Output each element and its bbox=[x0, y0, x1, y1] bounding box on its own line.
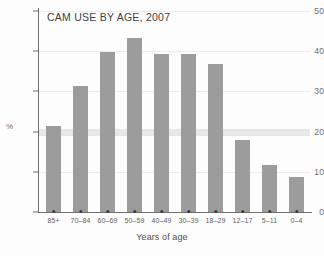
x-axis-label: Years of age bbox=[0, 232, 324, 242]
x-tick-label-5-11: 5–11 bbox=[262, 217, 277, 224]
bar-40-49 bbox=[154, 54, 169, 212]
bar-12-17 bbox=[235, 140, 250, 212]
y-tick-mark-10 bbox=[33, 171, 38, 172]
gridline-50 bbox=[38, 11, 310, 12]
y-axis-label: % bbox=[6, 122, 13, 131]
y-tick-label-20: 20 bbox=[292, 127, 324, 137]
bar-85-plus bbox=[46, 126, 61, 212]
bar-50-59 bbox=[127, 38, 142, 212]
x-tick-label-60-69: 60–69 bbox=[98, 217, 118, 224]
bar-18-29 bbox=[208, 64, 223, 212]
bar-70-84 bbox=[73, 86, 88, 212]
x-tick-label-70-84: 70–84 bbox=[71, 217, 91, 224]
x-tick-label-18-29: 18–29 bbox=[206, 217, 226, 224]
y-tick-label-40: 40 bbox=[292, 46, 324, 56]
x-tick-label-50-59: 50–59 bbox=[125, 217, 145, 224]
y-tick-mark-30 bbox=[33, 91, 38, 92]
plot-area bbox=[38, 11, 310, 212]
y-tick-mark-20 bbox=[33, 131, 38, 132]
y-axis-line bbox=[38, 8, 39, 212]
y-tick-mark-0 bbox=[33, 212, 38, 213]
bar-chart: CAM USE BY AGE, 2007 % 0 10 20 30 40 50 bbox=[0, 0, 324, 256]
y-tick-mark-50 bbox=[33, 11, 38, 12]
bar-60-69 bbox=[100, 52, 115, 212]
x-tick-label-85-plus: 85+ bbox=[47, 217, 59, 224]
y-tick-label-10: 10 bbox=[292, 167, 324, 177]
bar-5-11 bbox=[262, 165, 277, 212]
y-tick-label-30: 30 bbox=[292, 86, 324, 96]
y-tick-label-50: 50 bbox=[292, 6, 324, 16]
gridline-40 bbox=[38, 51, 310, 52]
bar-30-39 bbox=[181, 54, 196, 212]
x-tick-label-40-49: 40–49 bbox=[152, 217, 172, 224]
y-tick-mark-40 bbox=[33, 51, 38, 52]
x-tick-label-30-39: 30–39 bbox=[179, 217, 199, 224]
x-tick-label-0-4: 0–4 bbox=[291, 217, 303, 224]
x-tick-label-12-17: 12–17 bbox=[233, 217, 253, 224]
